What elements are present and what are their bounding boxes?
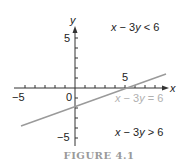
x-axis-label: x: [169, 82, 176, 94]
line-equation-label: x − 3y = 6: [114, 92, 163, 104]
figure-caption: FIGURE 4.1: [0, 150, 187, 161]
upper-region-label: x − 3y < 6: [110, 21, 159, 33]
y-axis-label: y: [69, 14, 77, 26]
coordinate-plane: x y −5 0 5 5 −5 x − 3y < 6 x − 3y = 6 x …: [0, 0, 187, 168]
y-tick-label-neg5: −5: [57, 131, 70, 143]
lower-region-label: x − 3y > 6: [114, 126, 163, 138]
x-tick-label-0: 0: [66, 91, 72, 103]
y-tick-label-5: 5: [64, 32, 70, 44]
x-tick-label-5: 5: [122, 71, 128, 83]
x-axis-arrow-icon: [162, 86, 169, 91]
y-axis-arrow-icon: [73, 26, 78, 33]
x-tick-label-neg5: −5: [12, 91, 25, 103]
